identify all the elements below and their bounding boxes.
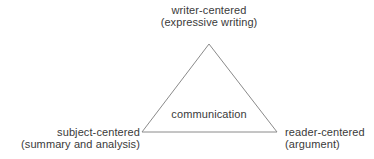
subject-centered-title: subject-centered xyxy=(21,126,140,138)
vertex-label-writer-centered: writer-centered (expressive writing) xyxy=(0,4,374,28)
writer-centered-title: writer-centered xyxy=(0,4,374,16)
subject-centered-subtitle: (summary and analysis) xyxy=(21,138,140,150)
vertex-label-reader-centered: reader-centered (argument) xyxy=(285,126,365,150)
reader-centered-title: reader-centered xyxy=(285,126,365,138)
reader-centered-subtitle: (argument) xyxy=(285,138,365,150)
vertex-label-subject-centered: subject-centered (summary and analysis) xyxy=(21,126,140,150)
center-label-communication: communication xyxy=(0,108,374,120)
writer-centered-subtitle: (expressive writing) xyxy=(0,16,374,28)
